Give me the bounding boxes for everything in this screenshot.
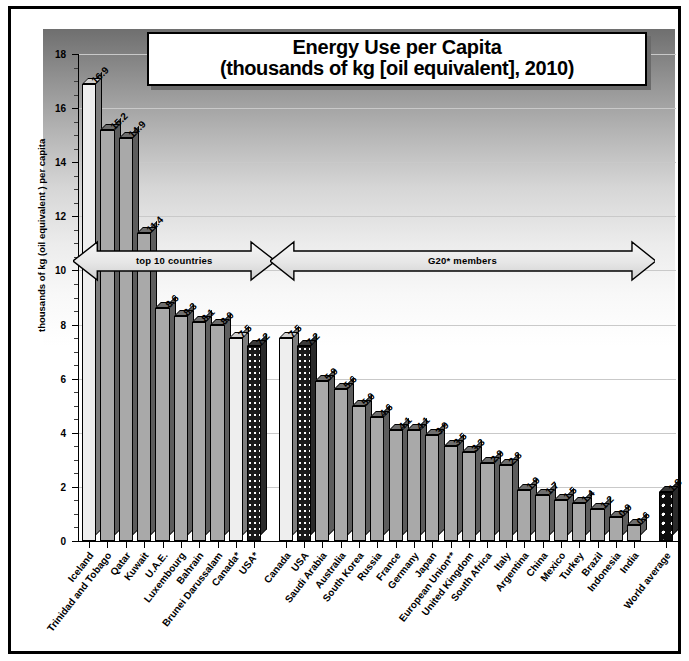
x-axis-tick xyxy=(377,542,378,548)
x-axis-tick xyxy=(218,542,219,548)
chart-title-box: Energy Use per Capita (thousands of kg [… xyxy=(147,32,647,86)
chart-title-line-1: Energy Use per Capita xyxy=(155,37,639,58)
bar-china xyxy=(535,495,549,541)
bar-front-face xyxy=(315,381,329,541)
bar-front-face xyxy=(462,452,476,541)
bar-iceland xyxy=(82,84,96,541)
x-axis-tick xyxy=(616,542,617,548)
chart-title-line-2: (thousands of kg [oil equivalent], 2010) xyxy=(155,58,639,79)
bar-front-face xyxy=(192,322,206,541)
bar-russia xyxy=(370,417,384,541)
bar-usa xyxy=(297,346,311,541)
bar-mexico xyxy=(554,500,568,541)
x-axis-tick xyxy=(341,542,342,548)
figure-outer-frame: 024681012141618 thousands of kg (oil equ… xyxy=(8,6,681,654)
bar-front-face xyxy=(407,430,421,541)
x-axis-tick xyxy=(254,542,255,548)
y-axis-title: thousands of kg (oil equivalent ) per ca… xyxy=(36,139,47,332)
x-axis-tick xyxy=(598,542,599,548)
annotation-label: G20* members xyxy=(270,238,656,284)
x-axis-tick xyxy=(561,542,562,548)
x-axis-tick xyxy=(487,542,488,548)
x-axis-tick xyxy=(634,542,635,548)
bar-front-face xyxy=(100,130,114,541)
gridline xyxy=(78,108,676,109)
bar-canada xyxy=(279,338,293,541)
bar-brunei-darussalam xyxy=(210,325,224,541)
bar-bahrain xyxy=(192,322,206,541)
x-axis-tick xyxy=(524,542,525,548)
bar-front-face xyxy=(554,500,568,541)
chart-panel: 024681012141618 thousands of kg (oil equ… xyxy=(25,21,686,657)
bar-front-face xyxy=(370,417,384,541)
bar-front-face xyxy=(297,346,311,541)
y-axis-tick-label: 8 xyxy=(44,319,66,330)
x-axis-tick xyxy=(359,542,360,548)
x-axis-tick xyxy=(432,542,433,548)
x-axis-tick xyxy=(304,542,305,548)
bar-front-face xyxy=(389,430,403,541)
bar-world-average xyxy=(659,492,673,541)
bar-saudi-arabia xyxy=(315,381,329,541)
y-axis-tick-label: 12 xyxy=(44,211,66,222)
annotation-g20-members: G20* members xyxy=(270,238,656,284)
y-axis-tick-label: 14 xyxy=(44,157,66,168)
bar-front-face xyxy=(425,435,439,541)
bar-front-face xyxy=(82,84,96,541)
bar-argentina xyxy=(517,490,531,541)
bar-trinidad-and-tobago xyxy=(100,130,114,541)
bar-qatar xyxy=(119,138,133,541)
x-axis-tick xyxy=(181,542,182,548)
x-axis-tick xyxy=(322,542,323,548)
annotation-label: top 10 countries xyxy=(73,238,275,284)
bar-front-face xyxy=(229,338,243,541)
bar-front-face xyxy=(480,463,494,541)
bar-indonesia xyxy=(609,517,623,541)
bar-front-face xyxy=(334,389,348,541)
x-axis-tick xyxy=(543,542,544,548)
y-axis-tick-label: 18 xyxy=(44,49,66,60)
x-axis-tick xyxy=(506,542,507,548)
x-axis-tick xyxy=(199,542,200,548)
bar-front-face xyxy=(279,338,293,541)
x-axis-tick xyxy=(163,542,164,548)
bar-front-face xyxy=(210,325,224,541)
bar-japan xyxy=(425,435,439,541)
x-axis-tick xyxy=(107,542,108,548)
bar-canada xyxy=(229,338,243,541)
y-axis-tick-label: 6 xyxy=(44,373,66,384)
bar-france xyxy=(389,430,403,541)
bar-united-kingdom xyxy=(462,452,476,541)
y-axis-tick-label: 16 xyxy=(44,103,66,114)
bar-india xyxy=(627,525,641,541)
x-axis-label-india: India xyxy=(618,550,641,575)
bar-luxembourg xyxy=(174,316,188,541)
bar-front-face xyxy=(444,446,458,541)
bar-european-union xyxy=(444,446,458,541)
bar-front-face xyxy=(174,316,188,541)
bar-side-face xyxy=(261,334,267,535)
bar-front-face xyxy=(119,138,133,541)
x-axis-label-canada: Canada xyxy=(261,550,292,585)
bar-italy xyxy=(499,465,513,541)
bar-germany xyxy=(407,430,421,541)
annotation-top-10-countries: top 10 countries xyxy=(73,238,275,284)
x-axis-tick xyxy=(286,542,287,548)
gridline xyxy=(78,162,676,163)
bar-australia xyxy=(334,389,348,541)
bar-turkey xyxy=(572,503,586,541)
x-axis-tick xyxy=(469,542,470,548)
bar-front-face xyxy=(609,517,623,541)
x-axis-tick xyxy=(451,542,452,548)
bar-front-face xyxy=(352,406,366,541)
bar-u-a-e xyxy=(155,308,169,541)
x-axis-tick xyxy=(666,542,667,548)
bar-south-africa xyxy=(480,463,494,541)
bar-usa xyxy=(247,346,261,541)
y-axis-tick-label: 10 xyxy=(44,265,66,276)
y-axis-line xyxy=(78,54,79,542)
gridline xyxy=(78,216,676,217)
x-axis-tick xyxy=(236,542,237,548)
bar-front-face xyxy=(517,490,531,541)
bar-south-korea xyxy=(352,406,366,541)
